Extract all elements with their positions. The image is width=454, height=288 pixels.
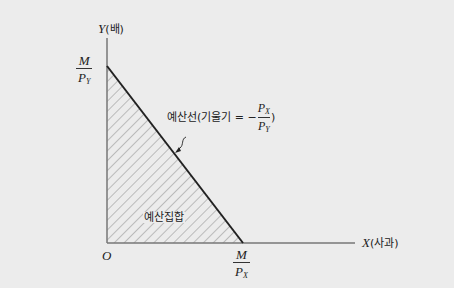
budget-line-label: 예산선(기울기 = −PXPY) bbox=[167, 102, 275, 134]
x-intercept-label: M PX bbox=[233, 248, 250, 280]
y-axis-label: Y(배) bbox=[98, 22, 124, 35]
y-intercept-label: M PY bbox=[76, 54, 92, 86]
origin-label: O bbox=[102, 249, 111, 262]
budget-set-diagram: Y(배) M PY 예산선(기울기 = −PXPY) 예산집합 O M PX X… bbox=[0, 0, 454, 288]
budget-set-label: 예산집합 bbox=[143, 212, 185, 223]
x-axis-label: X(사과) bbox=[362, 236, 399, 249]
